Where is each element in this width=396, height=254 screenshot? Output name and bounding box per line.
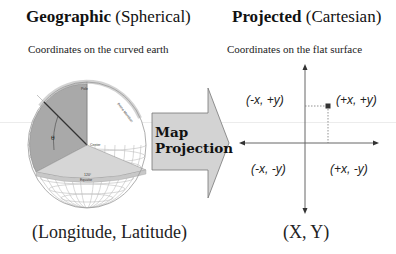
quadrant-bottom-right: (+x, -y) [330, 162, 368, 176]
cartesian-axes-icon [0, 0, 396, 254]
quadrant-top-left: (-x, +y) [246, 93, 284, 107]
quadrant-bottom-left: (-x, -y) [251, 162, 286, 176]
cartesian-coordinates-label: (X, Y) [283, 222, 329, 243]
point-marker [326, 104, 331, 109]
quadrant-top-right: (+x, +y) [336, 93, 377, 107]
geographic-coordinates-label: (Longitude, Latitude) [32, 222, 187, 243]
